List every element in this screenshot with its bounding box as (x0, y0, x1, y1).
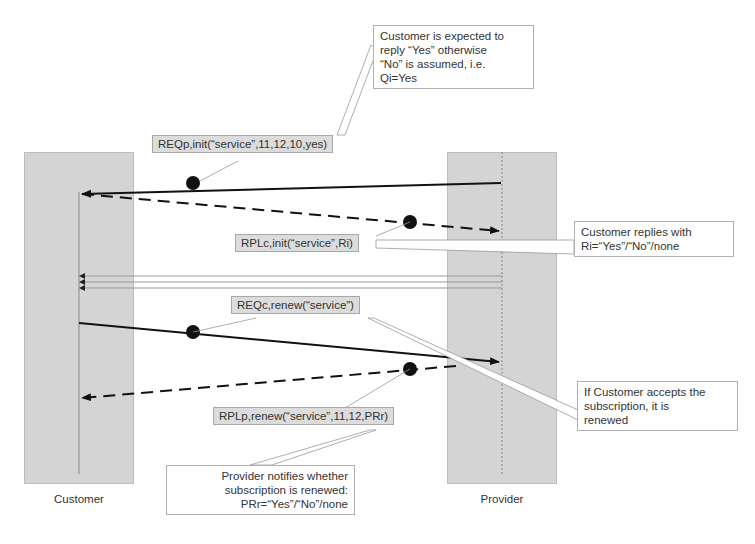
callout-provider-notifies (250, 430, 376, 465)
note-expected-reply: Customer is expected to reply “Yes” othe… (373, 25, 534, 89)
note-provider-notifies: Provider notifies whether subscription i… (166, 465, 355, 515)
arrow-rpl-renew (82, 366, 456, 398)
label-rpl-renew: RPLp,renew(“service”,11,12,PRr) (213, 407, 394, 425)
participant-customer-label: Customer (24, 493, 134, 505)
message-dot-req-init (186, 176, 200, 190)
label-req-renew: REQc,renew(“service”) (231, 296, 360, 314)
participant-provider-label: Provider (447, 493, 557, 505)
arrow-req-renew (79, 323, 499, 362)
label-req-init: REQp,init(“service”,11,12,10,yes) (152, 135, 333, 153)
arrow-req-init (82, 183, 501, 194)
callout-accepts-renewal (368, 318, 578, 420)
note-accepts-renewal: If Customer accepts the subscription, it… (577, 381, 738, 431)
callout-expected-reply (337, 45, 377, 135)
note-customer-replies: Customer replies with Ri=“Yes”/“No”/none (574, 221, 734, 257)
label-rpl-init: RPLc,init(“service”,Ri) (235, 234, 359, 252)
callout-customer-replies (376, 240, 574, 254)
arrow-rpl-init (82, 194, 499, 231)
